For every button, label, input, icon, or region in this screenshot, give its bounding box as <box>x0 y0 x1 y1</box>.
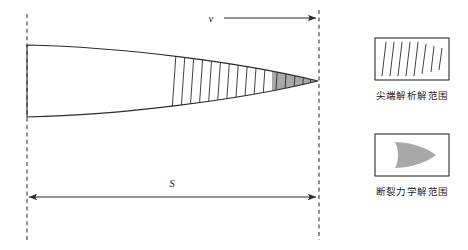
diagram-canvas: v S <box>0 0 468 250</box>
legend-label-analytical-zone: 尖端解析解范围 <box>358 88 466 102</box>
legend-label-fracture-zone: 断裂力学解范围 <box>358 184 466 198</box>
span-label: S <box>169 177 175 189</box>
fracture-mechanics-zone <box>272 30 322 135</box>
velocity-label: v <box>209 12 214 24</box>
fracture-mechanics-diagram: v S 尖端解析解范围 断裂力学解范围 <box>0 0 468 250</box>
